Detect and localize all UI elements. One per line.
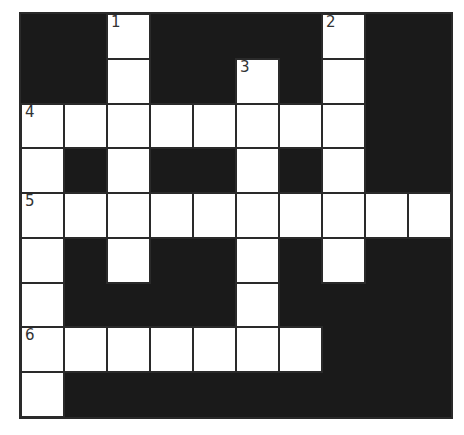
block-cell (279, 238, 322, 283)
block-cell (107, 283, 150, 328)
crossword-cell[interactable] (193, 193, 236, 238)
block-cell (150, 59, 193, 104)
crossword-cell[interactable] (236, 283, 279, 328)
crossword-cell[interactable] (279, 327, 322, 372)
crossword-cell[interactable] (236, 193, 279, 238)
block-cell (193, 283, 236, 328)
block-cell (150, 372, 193, 417)
crossword-cell[interactable] (64, 104, 107, 149)
crossword-cell[interactable] (365, 193, 408, 238)
block-cell (21, 59, 64, 104)
crossword-cell[interactable] (236, 148, 279, 193)
block-cell (408, 327, 451, 372)
clue-number: 4 (25, 105, 35, 120)
clue-number: 6 (25, 328, 35, 343)
crossword-cell[interactable] (21, 372, 64, 417)
clue-number: 2 (326, 15, 336, 30)
block-cell (193, 238, 236, 283)
crossword-cell[interactable] (64, 327, 107, 372)
block-cell (365, 104, 408, 149)
block-cell (64, 59, 107, 104)
crossword-cell[interactable] (107, 148, 150, 193)
crossword-cell[interactable] (107, 59, 150, 104)
crossword-cell[interactable] (193, 104, 236, 149)
crossword-cell[interactable] (150, 104, 193, 149)
crossword-cell[interactable] (236, 238, 279, 283)
block-cell (236, 372, 279, 417)
crossword-cell[interactable]: 5 (21, 193, 64, 238)
crossword-cell[interactable] (107, 238, 150, 283)
block-cell (64, 14, 107, 59)
block-cell (322, 283, 365, 328)
crossword-cell[interactable]: 3 (236, 59, 279, 104)
crossword-cell[interactable]: 2 (322, 14, 365, 59)
crossword-cell[interactable]: 4 (21, 104, 64, 149)
clue-number: 5 (25, 194, 35, 209)
block-cell (365, 14, 408, 59)
block-cell (408, 372, 451, 417)
crossword-cell[interactable] (107, 193, 150, 238)
crossword-cell[interactable] (322, 104, 365, 149)
block-cell (279, 372, 322, 417)
block-cell (107, 372, 150, 417)
crossword-cell[interactable] (107, 327, 150, 372)
block-cell (365, 238, 408, 283)
block-cell (408, 238, 451, 283)
crossword-cell[interactable] (236, 104, 279, 149)
block-cell (64, 148, 107, 193)
block-cell (322, 372, 365, 417)
block-cell (365, 327, 408, 372)
crossword-cell[interactable] (21, 283, 64, 328)
block-cell (365, 59, 408, 104)
crossword-cell[interactable] (322, 148, 365, 193)
clue-number: 3 (240, 60, 250, 75)
crossword-cell[interactable]: 1 (107, 14, 150, 59)
block-cell (64, 238, 107, 283)
crossword-cell[interactable]: 6 (21, 327, 64, 372)
crossword-cell[interactable] (322, 59, 365, 104)
block-cell (193, 148, 236, 193)
block-cell (408, 283, 451, 328)
crossword-cell[interactable] (107, 104, 150, 149)
crossword-cell[interactable] (21, 238, 64, 283)
crossword-cell[interactable] (322, 193, 365, 238)
block-cell (279, 59, 322, 104)
crossword-cell[interactable] (150, 327, 193, 372)
crossword-cell[interactable] (279, 193, 322, 238)
block-cell (64, 283, 107, 328)
block-cell (279, 283, 322, 328)
block-cell (408, 148, 451, 193)
block-cell (365, 148, 408, 193)
block-cell (279, 14, 322, 59)
block-cell (64, 372, 107, 417)
block-cell (365, 283, 408, 328)
block-cell (193, 59, 236, 104)
block-cell (408, 14, 451, 59)
crossword-cell[interactable] (322, 238, 365, 283)
block-cell (365, 372, 408, 417)
block-cell (150, 14, 193, 59)
crossword-cell[interactable] (21, 148, 64, 193)
crossword-cell[interactable] (408, 193, 451, 238)
block-cell (150, 148, 193, 193)
crossword-cell[interactable] (236, 327, 279, 372)
block-cell (193, 14, 236, 59)
crossword-cell[interactable] (193, 327, 236, 372)
clue-number: 1 (111, 15, 121, 30)
crossword-cell[interactable] (150, 193, 193, 238)
block-cell (236, 14, 279, 59)
block-cell (21, 14, 64, 59)
block-cell (322, 327, 365, 372)
block-cell (150, 238, 193, 283)
block-cell (150, 283, 193, 328)
block-cell (193, 372, 236, 417)
crossword-cell[interactable] (64, 193, 107, 238)
block-cell (408, 104, 451, 149)
block-cell (279, 148, 322, 193)
block-cell (408, 59, 451, 104)
crossword-cell[interactable] (279, 104, 322, 149)
crossword-grid: 123456 (19, 12, 453, 419)
